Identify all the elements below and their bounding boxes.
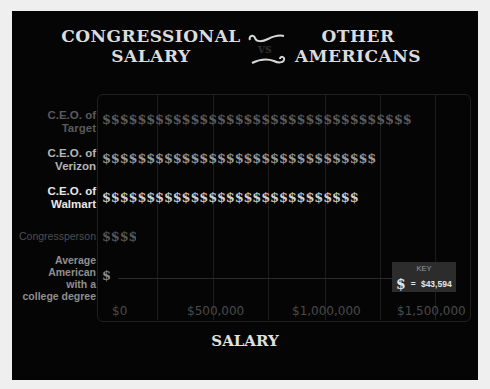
bar-target: $$$$$$$$$$$$$$$$$$$$$$$$$$$$$$$$$$$ <box>102 112 459 128</box>
chart-title: CONGRESSIONAL SALARY vs OTHER AMERICANS <box>0 26 490 76</box>
key-row: $ = $43,594 <box>396 274 452 293</box>
x-axis-label: SALARY <box>0 332 490 350</box>
bar-average-american: $ <box>102 268 112 284</box>
vs-ornament-icon: vs <box>246 30 290 70</box>
baseline <box>118 278 398 279</box>
key-title: KEY <box>392 264 456 273</box>
dollar-icon: $ <box>396 276 406 292</box>
key-value: $43,594 <box>421 279 452 289</box>
vs-text: vs <box>258 42 272 56</box>
x-tick-0: $0 <box>112 304 127 318</box>
title-left: CONGRESSIONAL SALARY <box>60 26 242 66</box>
title-right-line1: OTHER <box>288 26 428 46</box>
x-tick-1-5m: $1,500,000 <box>397 304 466 318</box>
title-right: OTHER AMERICANS <box>288 26 428 66</box>
bar-verizon: $$$$$$$$$$$$$$$$$$$$$$$$$$$$$$$ <box>102 151 412 167</box>
title-left-line2: SALARY <box>60 46 242 66</box>
x-tick-1m: $1,000,000 <box>292 304 361 318</box>
legend-key: KEY $ = $43,594 <box>392 262 456 292</box>
bar-congressperson: $$$$ <box>102 229 136 245</box>
title-left-line1: CONGRESSIONAL <box>60 26 242 46</box>
row-label-target: C.E.O. ofTarget <box>14 109 96 135</box>
x-tick-500k: $500,000 <box>187 304 244 318</box>
row-label-average-american: AverageAmericanwith acollege degree <box>14 254 96 302</box>
title-right-line2: AMERICANS <box>288 46 428 66</box>
bar-walmart: $$$$$$$$$$$$$$$$$$$$$$$$$$$$$ <box>102 190 393 206</box>
row-label-verizon: C.E.O. ofVerizon <box>14 147 96 173</box>
row-label-walmart: C.E.O. ofWalmart <box>14 185 96 211</box>
row-label-congressperson: Congressperson <box>14 230 96 243</box>
